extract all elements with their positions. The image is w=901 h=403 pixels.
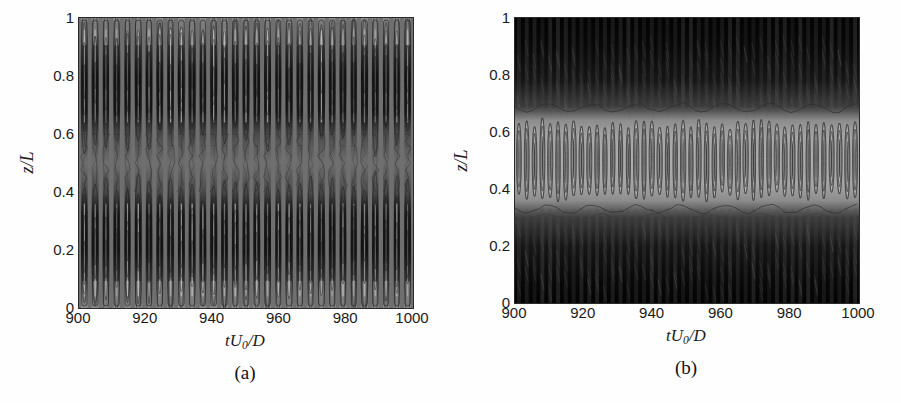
x-tick-label: 1000 [841,304,874,321]
x-tick-label: 980 [333,309,358,326]
contour-plot-a [79,18,413,308]
y-axis-label-b: z/L [451,126,472,196]
y-tick-label: 0.2 [489,237,510,254]
x-tick-label: 900 [501,304,526,321]
plot-area-b [514,17,860,304]
x-axis-label-prefix: tU [225,331,242,350]
x-tick-label: 940 [199,309,224,326]
panel-b: 1 0.8 0.6 0.4 0.2 0 900 920 940 960 980 … [450,0,901,403]
y-tick-label: 1 [66,9,74,26]
panel-caption-a: (a) [78,362,412,384]
plot-area-a [78,17,414,309]
y-tick-label: 0.8 [489,66,510,83]
x-tick-label: 940 [639,304,664,321]
panel-caption-b: (b) [514,357,858,379]
contour-plot-b [515,18,859,303]
x-tick-label: 960 [266,309,291,326]
x-axis-label-a: tU0/D [78,331,412,352]
x-axis-label-b: tU0/D [514,326,858,347]
x-tick-label: 920 [570,304,595,321]
y-tick-label: 0.4 [53,183,74,200]
x-axis-label-suffix: /D [689,326,706,345]
x-axis-ticks-b: 900 920 940 960 980 1000 [514,304,858,324]
y-tick-label: 0.2 [53,241,74,258]
x-tick-label: 980 [777,304,802,321]
x-tick-label: 900 [65,309,90,326]
x-tick-label: 960 [708,304,733,321]
y-tick-label: 0.6 [53,125,74,142]
x-tick-label: 920 [132,309,157,326]
y-tick-label: 0.4 [489,180,510,197]
y-tick-label: 0.8 [53,67,74,84]
x-axis-ticks-a: 900 920 940 960 980 1000 [78,309,412,329]
y-tick-label: 0.6 [489,123,510,140]
y-tick-label: 1 [502,9,510,26]
x-tick-label: 1000 [395,309,428,326]
panel-a: 1 0.8 0.6 0.4 0.2 0 900 920 940 960 980 … [0,0,450,403]
y-axis-label-a: z/L [17,128,38,198]
figure-container: 1 0.8 0.6 0.4 0.2 0 900 920 940 960 980 … [0,0,901,403]
x-axis-label-prefix: tU [666,326,683,345]
x-axis-label-suffix: /D [248,331,265,350]
